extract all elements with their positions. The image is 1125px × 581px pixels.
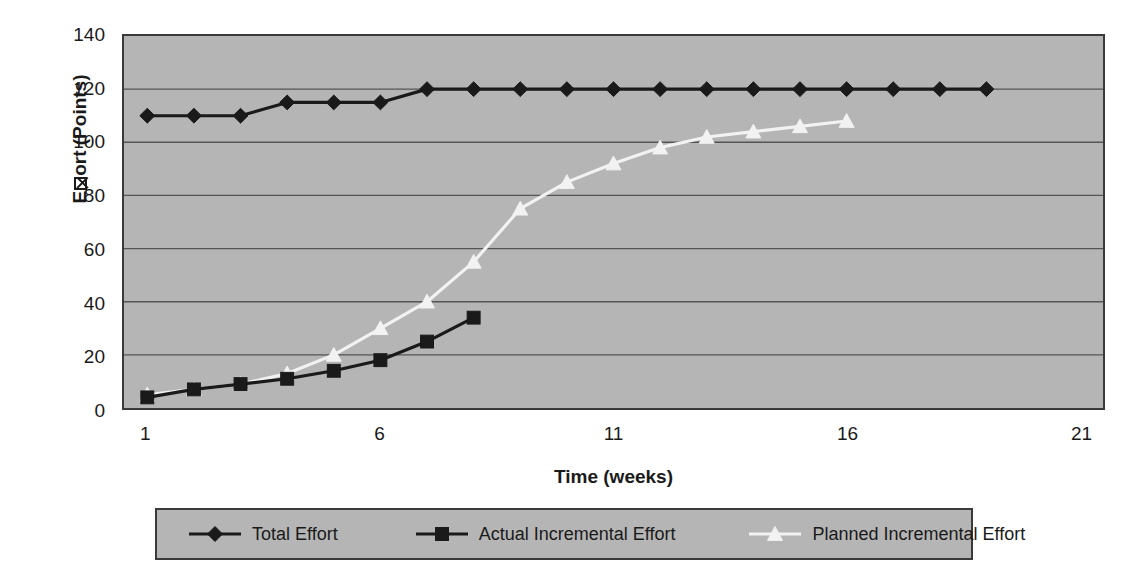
y-tick-label: 120 [49,79,105,98]
y-tick-label: 60 [49,240,105,259]
y-tick-label: 80 [49,186,105,205]
data-point-diamond [280,95,295,110]
data-point-diamond [208,527,223,542]
legend-marker-diamond-icon [187,524,243,544]
y-tick-label: 100 [49,132,105,151]
data-point-square [435,528,448,541]
x-tick-label: 6 [374,424,385,443]
series-total-effort [140,82,994,123]
legend-item[interactable]: Planned Incremental Effort [747,524,1025,545]
legend-marker-triangle-icon [747,524,803,544]
data-point-square [141,391,154,404]
legend-item-label: Planned Incremental Effort [812,524,1025,545]
data-point-diamond [653,82,668,97]
y-tick-label: 0 [49,401,105,420]
x-tick-label: 1 [140,424,151,443]
legend-item-label: Actual Incremental Effort [479,524,676,545]
legend-marker-square-icon [414,524,470,544]
data-point-diamond [326,95,341,110]
data-point-diamond [839,82,854,97]
legend-item[interactable]: Total Effort [187,524,338,545]
data-point-diamond [373,95,388,110]
data-point-diamond [793,82,808,97]
y-tick-label: 40 [49,294,105,313]
legend-item[interactable]: Actual Incremental Effort [414,524,676,545]
data-point-diamond [513,82,528,97]
data-point-diamond [699,82,714,97]
data-point-square [281,372,294,385]
x-tick-label: 16 [837,424,858,443]
data-point-diamond [932,82,947,97]
x-tick-label: 11 [604,424,624,443]
x-axis-title: Time (weeks) [122,466,1105,488]
data-point-diamond [420,82,435,97]
data-point-diamond [466,82,481,97]
data-point-diamond [746,82,761,97]
data-point-square [327,364,340,377]
data-point-square [421,335,434,348]
data-point-diamond [606,82,621,97]
x-tick-label: 21 [1071,424,1092,443]
data-point-square [374,354,387,367]
data-point-square [187,383,200,396]
data-point-diamond [979,82,994,97]
data-point-triangle [513,201,528,215]
series-line [147,121,846,395]
legend-item-label: Total Effort [252,524,338,545]
y-tick-label: 20 [49,347,105,366]
data-point-diamond [559,82,574,97]
data-point-diamond [140,108,155,123]
x-axis-tick-labels: 16111621 [122,424,1105,454]
series-planned-incremental-effort [140,114,854,401]
data-point-square [467,311,480,324]
series-actual-incremental-effort [141,311,480,404]
data-point-square [234,378,247,391]
effort-chart-figure: Eort (Points) 020406080100120140 1611162… [0,0,1125,581]
plot-canvas [124,36,1103,408]
data-point-triangle [373,321,388,335]
data-point-diamond [233,108,248,123]
y-axis-tick-labels: 020406080100120140 [45,0,105,581]
plot-area [122,34,1105,410]
data-point-diamond [186,108,201,123]
data-point-diamond [886,82,901,97]
chart-legend: Total EffortActual Incremental EffortPla… [155,508,973,560]
y-tick-label: 140 [49,25,105,44]
